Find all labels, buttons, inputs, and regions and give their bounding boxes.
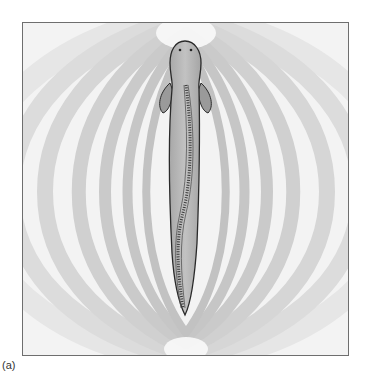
electric-field-diagram	[23, 23, 349, 356]
panel-label: (a)	[2, 359, 15, 371]
figure-panel	[22, 22, 349, 356]
